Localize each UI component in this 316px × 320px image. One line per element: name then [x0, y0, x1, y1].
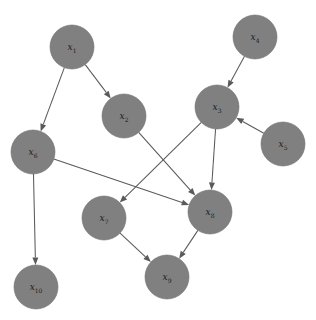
edge-line [33, 174, 35, 258]
node-circle[interactable] [14, 265, 58, 309]
node-circle[interactable] [50, 25, 94, 69]
graph-node-x7[interactable]: x7 [82, 196, 126, 240]
arrowhead-icon [104, 91, 111, 99]
arrowhead-icon [228, 80, 234, 88]
node-circle[interactable] [261, 122, 305, 166]
edge-line [43, 68, 64, 125]
graph-edge [120, 233, 151, 262]
edge-line [120, 233, 145, 257]
graph-edge [40, 68, 64, 132]
arrowhead-icon [40, 123, 46, 131]
graph-node-x4[interactable]: x4 [233, 15, 277, 59]
node-circle[interactable] [11, 130, 55, 174]
graph-edge [209, 129, 216, 190]
edge-line [54, 159, 182, 202]
graph-node-x1[interactable]: x1 [50, 25, 94, 69]
edges-layer [32, 56, 263, 265]
graph-canvas: x1x2x3x4x5x6x7x8x9x10 [0, 0, 316, 320]
node-circle[interactable] [145, 255, 189, 299]
graph-node-x5[interactable]: x5 [261, 122, 305, 166]
arrowhead-icon [181, 200, 189, 206]
graph-edge [236, 118, 264, 133]
node-circle[interactable] [195, 85, 239, 129]
arrowhead-icon [179, 251, 186, 259]
graph-edge [32, 174, 38, 265]
edge-line [243, 121, 264, 133]
node-circle[interactable] [82, 196, 126, 240]
node-circle[interactable] [102, 94, 146, 138]
arrowhead-icon [32, 257, 38, 265]
edge-line [85, 65, 106, 93]
node-circle[interactable] [188, 190, 232, 234]
arrowhead-icon [236, 118, 244, 124]
graph-node-x2[interactable]: x2 [102, 94, 146, 138]
graph-edge [179, 230, 198, 258]
graph-node-x9[interactable]: x9 [145, 255, 189, 299]
directed-graph: x1x2x3x4x5x6x7x8x9x10 [0, 0, 316, 320]
edge-line [183, 230, 198, 252]
edge-line [212, 129, 216, 183]
graph-edge [139, 132, 196, 195]
graph-node-x8[interactable]: x8 [188, 190, 232, 234]
edge-line [231, 56, 244, 81]
graph-edge [228, 56, 245, 87]
arrowhead-icon [209, 182, 215, 190]
graph-node-x3[interactable]: x3 [195, 85, 239, 129]
graph-edge [85, 65, 111, 99]
node-circle[interactable] [233, 15, 277, 59]
graph-node-x10[interactable]: x10 [14, 265, 58, 309]
graph-node-x6[interactable]: x6 [11, 130, 55, 174]
nodes-layer: x1x2x3x4x5x6x7x8x9x10 [11, 15, 305, 309]
